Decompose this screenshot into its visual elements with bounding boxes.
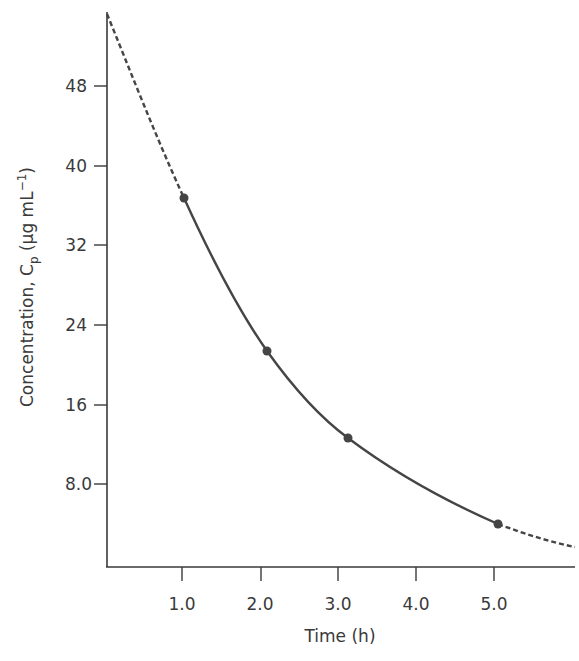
- data-point: [494, 520, 503, 529]
- axes: [106, 12, 575, 567]
- x-tick-label: 1.0: [168, 594, 195, 614]
- concentration-curve: [184, 198, 498, 524]
- data-markers: [180, 194, 503, 529]
- y-tick-label: 32: [65, 235, 87, 255]
- x-axis-label: Time (h): [303, 626, 375, 646]
- y-axis-label-close: ): [17, 167, 37, 174]
- concentration-time-chart: 48 40 32 24 16 8.0 1.0 2.0 3.0 4.0 5.0 T…: [0, 0, 579, 661]
- x-tick-label: 5.0: [480, 594, 507, 614]
- y-tick-labels: 48 40 32 24 16 8.0: [65, 76, 92, 494]
- y-axis-label-units: (μg mL: [17, 191, 37, 257]
- y-tick-label: 48: [65, 76, 87, 96]
- y-axis-label-sup: −1: [15, 174, 29, 192]
- x-ticks: [182, 567, 494, 581]
- plot-series: [107, 14, 575, 547]
- y-axis-label: Concentration, Cp (μg mL−1): [15, 167, 41, 407]
- x-tick-labels: 1.0 2.0 3.0 4.0 5.0: [168, 594, 507, 614]
- y-axis-label-main: Concentration, C: [17, 264, 37, 407]
- y-tick-label: 40: [65, 156, 87, 176]
- x-tick-label: 4.0: [402, 594, 429, 614]
- data-point: [180, 194, 189, 203]
- data-point: [263, 347, 272, 356]
- y-tick-label: 16: [65, 395, 87, 415]
- x-tick-label: 3.0: [324, 594, 351, 614]
- y-tick-label: 24: [65, 315, 87, 335]
- extrapolation-back-dashed: [107, 14, 184, 198]
- y-tick-label: 8.0: [65, 474, 92, 494]
- extrapolation-forward-dashed: [498, 524, 575, 547]
- y-axis-label-subscript: p: [27, 256, 41, 264]
- y-ticks: [94, 86, 107, 484]
- data-point: [344, 434, 353, 443]
- x-tick-label: 2.0: [246, 594, 273, 614]
